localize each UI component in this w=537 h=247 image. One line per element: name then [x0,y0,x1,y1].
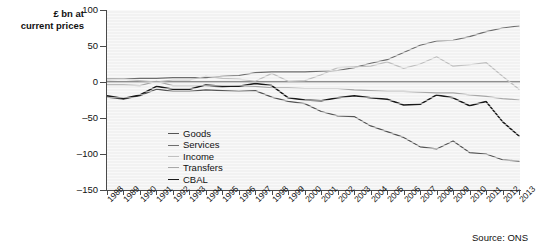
legend-item-cbal: CBAL [168,174,223,185]
plot-background-band [107,88,520,89]
plot-background-band [107,61,520,62]
legend-swatch-cbal [168,179,179,180]
legend-label-income: Income [183,151,214,162]
y-tick [100,46,107,47]
y-axis-line [106,10,107,191]
legend-swatch-transfers [168,167,179,168]
plot-background-band [107,79,520,80]
y-tick-label: 0 [58,77,98,87]
plot-background-band [107,82,520,83]
source-note: Source: ONS [472,232,528,243]
plot-background-band [107,85,520,86]
y-tick [100,118,107,119]
plot-background-band [107,25,520,26]
legend-swatch-goods [168,133,179,134]
legend-item-goods: Goods [168,128,223,139]
y-tick [100,154,107,155]
y-tick-label: 100 [58,5,98,15]
plot-background-band [107,34,520,35]
y-tick-label: –100 [58,149,98,159]
plot-background-band [107,103,520,104]
plot-background-band [107,121,520,122]
y-tick [100,82,107,83]
y-tick-label: 50 [58,41,98,51]
legend-swatch-income [168,156,179,157]
legend-label-goods: Goods [183,128,211,139]
plot-background-band [107,40,520,41]
plot-background-band [107,52,520,53]
legend-label-transfers: Transfers [183,162,223,173]
plot-background-band [107,76,520,77]
plot-background-band [107,70,520,71]
plot-background-band [107,115,520,116]
plot-background-band [107,10,520,11]
plot-background-band [107,55,520,56]
plot-background-band [107,19,520,20]
plot-background-band [107,64,520,65]
plot-background-band [107,58,520,59]
plot-background-band [107,31,520,32]
legend-label-cbal: CBAL [183,174,208,185]
plot-background-band [107,91,520,92]
y-tick-label: –150 [58,185,98,195]
plot-background-band [107,28,520,29]
plot-background-band [107,13,520,14]
plot-background-band [107,118,520,119]
x-tick-label: 2013 [517,184,537,204]
legend-item-services: Services [168,139,223,150]
plot-background-band [107,124,520,125]
plot-background-band [107,16,520,17]
plot-background-band [107,49,520,50]
legend-label-services: Services [183,139,219,150]
plot-background-band [107,73,520,74]
plot-background-band [107,112,520,113]
plot-background-band [107,97,520,98]
y-tick-label: –50 [58,113,98,123]
chart-legend: GoodsServicesIncomeTransfersCBAL [168,128,223,185]
plot-background-band [107,22,520,23]
plot-background-band [107,67,520,68]
y-tick-labels: 100500–50–100–150 [52,0,98,247]
plot-background-band [107,100,520,101]
legend-swatch-services [168,145,179,146]
plot-background-band [107,43,520,44]
plot-background-band [107,37,520,38]
plot-background-band [107,109,520,110]
y-tick [100,10,107,11]
plot-background-band [107,46,520,47]
legend-item-transfers: Transfers [168,162,223,173]
legend-item-income: Income [168,151,223,162]
plot-background-band [107,94,520,95]
plot-background-band [107,106,520,107]
